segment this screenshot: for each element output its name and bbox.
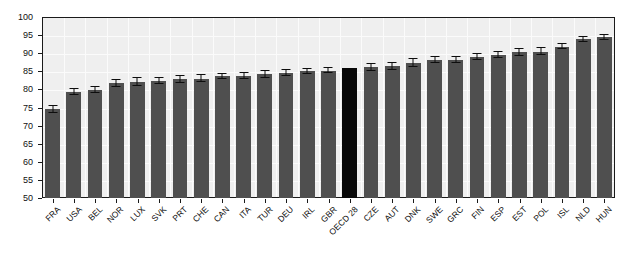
error-bar-cap-top xyxy=(91,86,100,87)
bar-group[interactable] xyxy=(427,17,442,198)
bar-group[interactable] xyxy=(321,17,336,198)
x-axis: FRAUSABELNORLUXSVKPRTCHECANITATURDEUIRLG… xyxy=(42,199,615,258)
bar-chart: 50556065707580859095100 FRAUSABELNORLUXS… xyxy=(0,0,633,258)
bar[interactable] xyxy=(257,74,272,198)
error-bar-cap-top xyxy=(154,77,163,78)
bar-group[interactable] xyxy=(555,17,570,198)
bar[interactable] xyxy=(342,68,357,198)
bar[interactable] xyxy=(236,76,251,198)
bar[interactable] xyxy=(406,63,421,198)
bar[interactable] xyxy=(512,52,527,198)
error-bar-cap-bottom xyxy=(303,73,312,74)
error-bar-cap-bottom xyxy=(175,82,184,83)
x-tick-label: SVK xyxy=(150,205,168,223)
bar[interactable] xyxy=(45,109,60,198)
error-bar-cap-bottom xyxy=(154,83,163,84)
x-tick-mark xyxy=(222,199,223,203)
bar[interactable] xyxy=(66,92,81,198)
bar[interactable] xyxy=(151,81,166,198)
bar-group[interactable] xyxy=(576,17,591,198)
error-bar-cap-top xyxy=(473,53,482,54)
error-bar-cap-top xyxy=(112,79,121,80)
x-tick-label: CHE xyxy=(191,205,210,224)
bar-group[interactable] xyxy=(342,17,357,198)
bar-group[interactable] xyxy=(448,17,463,198)
x-tick-label: DNK xyxy=(404,205,423,224)
bar-group[interactable] xyxy=(130,17,145,198)
bar-group[interactable] xyxy=(109,17,124,198)
x-tick-label: DEU xyxy=(276,205,295,224)
x-tick-label: ITA xyxy=(237,205,252,220)
error-bar-cap-top xyxy=(430,56,439,57)
x-tick-mark xyxy=(477,199,478,203)
bar[interactable] xyxy=(279,73,294,198)
bar-group[interactable] xyxy=(385,17,400,198)
x-tick-label: LUX xyxy=(128,205,146,223)
bar[interactable] xyxy=(130,82,145,198)
bar[interactable] xyxy=(215,76,230,198)
error-bar-cap-bottom xyxy=(494,57,503,58)
bar[interactable] xyxy=(427,60,442,198)
bar[interactable] xyxy=(555,47,570,198)
error-bar-cap-bottom xyxy=(133,85,142,86)
bar-group[interactable] xyxy=(406,17,421,198)
bar-group[interactable] xyxy=(215,17,230,198)
error-bar-cap-bottom xyxy=(430,62,439,63)
bar[interactable] xyxy=(321,71,336,198)
error-bar-line xyxy=(370,63,371,70)
bar-group[interactable] xyxy=(194,17,209,198)
error-bar-line xyxy=(540,47,541,54)
bar-group[interactable] xyxy=(88,17,103,198)
error-bar-cap-bottom xyxy=(536,54,545,55)
error-bar-cap-top xyxy=(239,72,248,73)
bar-group[interactable] xyxy=(45,17,60,198)
bar-group[interactable] xyxy=(512,17,527,198)
bar[interactable] xyxy=(597,37,612,198)
x-tick-mark xyxy=(604,199,605,203)
bar-group[interactable] xyxy=(491,17,506,198)
bar[interactable] xyxy=(364,67,379,198)
bar-group[interactable] xyxy=(364,17,379,198)
x-tick-mark xyxy=(116,199,117,203)
bar-group[interactable] xyxy=(597,17,612,198)
bar[interactable] xyxy=(470,57,485,198)
error-bar-line xyxy=(392,62,393,69)
x-tick-mark xyxy=(95,199,96,203)
bar[interactable] xyxy=(385,66,400,198)
error-bar-cap-bottom xyxy=(388,69,397,70)
error-bar-cap-bottom xyxy=(473,59,482,60)
error-bar-cap-top xyxy=(536,47,545,48)
bar[interactable] xyxy=(491,55,506,198)
bar-group[interactable] xyxy=(300,17,315,198)
bar-group[interactable] xyxy=(257,17,272,198)
bar-group[interactable] xyxy=(173,17,188,198)
error-bar-cap-bottom xyxy=(48,112,57,113)
x-tick-mark xyxy=(53,199,54,203)
bar-group[interactable] xyxy=(533,17,548,198)
y-tick-label: 70 xyxy=(23,121,33,130)
bar-group[interactable] xyxy=(151,17,166,198)
bar[interactable] xyxy=(448,60,463,198)
error-bar-line xyxy=(519,48,520,55)
bar-group[interactable] xyxy=(470,17,485,198)
error-bar-cap-bottom xyxy=(324,72,333,73)
bar-group[interactable] xyxy=(66,17,81,198)
bar-group[interactable] xyxy=(236,17,251,198)
bar-group[interactable] xyxy=(279,17,294,198)
x-tick-label: PRT xyxy=(171,205,189,223)
bar[interactable] xyxy=(533,52,548,198)
x-tick-label: FIN xyxy=(470,205,486,221)
x-tick-mark xyxy=(265,199,266,203)
x-tick-mark xyxy=(392,199,393,203)
bar[interactable] xyxy=(194,79,209,198)
bar[interactable] xyxy=(173,79,188,198)
bar[interactable] xyxy=(300,71,315,198)
bar[interactable] xyxy=(576,39,591,198)
y-tick-label: 75 xyxy=(23,103,33,112)
error-bar-cap-bottom xyxy=(600,39,609,40)
bar[interactable] xyxy=(109,83,124,198)
x-tick-mark xyxy=(413,199,414,203)
x-tick-mark xyxy=(583,199,584,203)
x-tick-mark xyxy=(350,199,351,203)
bar[interactable] xyxy=(88,90,103,198)
